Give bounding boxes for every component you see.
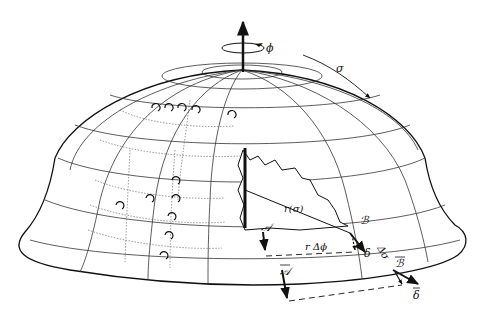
label-A-bar: 𝒜: [280, 265, 294, 278]
vector-A: [263, 232, 265, 250]
cutaway-region: [238, 148, 350, 233]
label-r-delta-phi: r Δϕ: [305, 241, 327, 252]
label-delta-bar: δ: [413, 289, 420, 302]
shell-diagram: ϕ σ r(σ) 𝒜 ℬ r Δϕ δ Δσ 𝒜 ℬ δ: [0, 0, 485, 319]
label-delta: δ: [364, 247, 371, 260]
label-radius: r(σ): [284, 203, 304, 214]
curl-symbols: [116, 104, 236, 259]
label-phi: ϕ: [266, 42, 274, 55]
dashed-bottom: [289, 285, 402, 301]
label-B-bar: ℬ: [395, 257, 405, 270]
diagram-canvas: ϕ σ r(σ) 𝒜 ℬ r Δϕ δ Δσ 𝒜 ℬ δ: [0, 0, 485, 319]
dashed-top: [266, 252, 355, 256]
label-sigma: σ: [336, 62, 344, 75]
label-B: ℬ: [360, 214, 370, 227]
axis-arrow: [222, 22, 264, 72]
dotted-grid: [88, 100, 240, 268]
label-delta-sigma: Δσ: [375, 243, 393, 263]
